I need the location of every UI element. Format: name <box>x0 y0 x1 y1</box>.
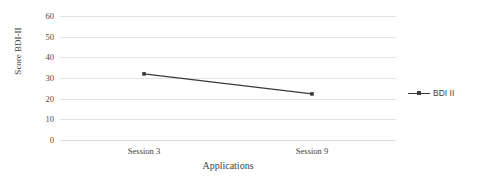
series-line <box>144 74 312 94</box>
data-point <box>142 72 146 76</box>
chart-legend: BDI II <box>408 88 454 98</box>
axis-baseline <box>60 140 396 141</box>
x-axis-tick-labels: Session 3 Session 9 <box>60 146 396 160</box>
series-bdi-ii <box>60 16 396 140</box>
y-tick-label: 20 <box>46 94 55 104</box>
y-tick-label: 10 <box>46 114 55 124</box>
x-tick-label-session-3: Session 3 <box>128 146 160 156</box>
y-tick-label: 30 <box>46 73 55 83</box>
x-axis-title: Applications <box>60 160 396 171</box>
y-axis-tick-labels: 60 50 40 30 20 10 0 <box>28 16 54 140</box>
legend-label-bdi-ii: BDI II <box>433 88 454 98</box>
legend-line-marker-icon <box>408 89 430 98</box>
y-tick-label: 0 <box>50 135 54 145</box>
y-tick-label: 40 <box>46 52 55 62</box>
plot-area <box>60 16 396 140</box>
y-tick-label: 50 <box>46 32 55 42</box>
y-axis-title: Score BDI-II <box>13 3 23 99</box>
x-tick-label-session-9: Session 9 <box>296 146 328 156</box>
chart-figure: 60 50 40 30 20 10 0 Score BDI-II Session… <box>0 0 477 183</box>
data-point <box>310 92 314 96</box>
y-tick-label: 60 <box>46 11 55 21</box>
